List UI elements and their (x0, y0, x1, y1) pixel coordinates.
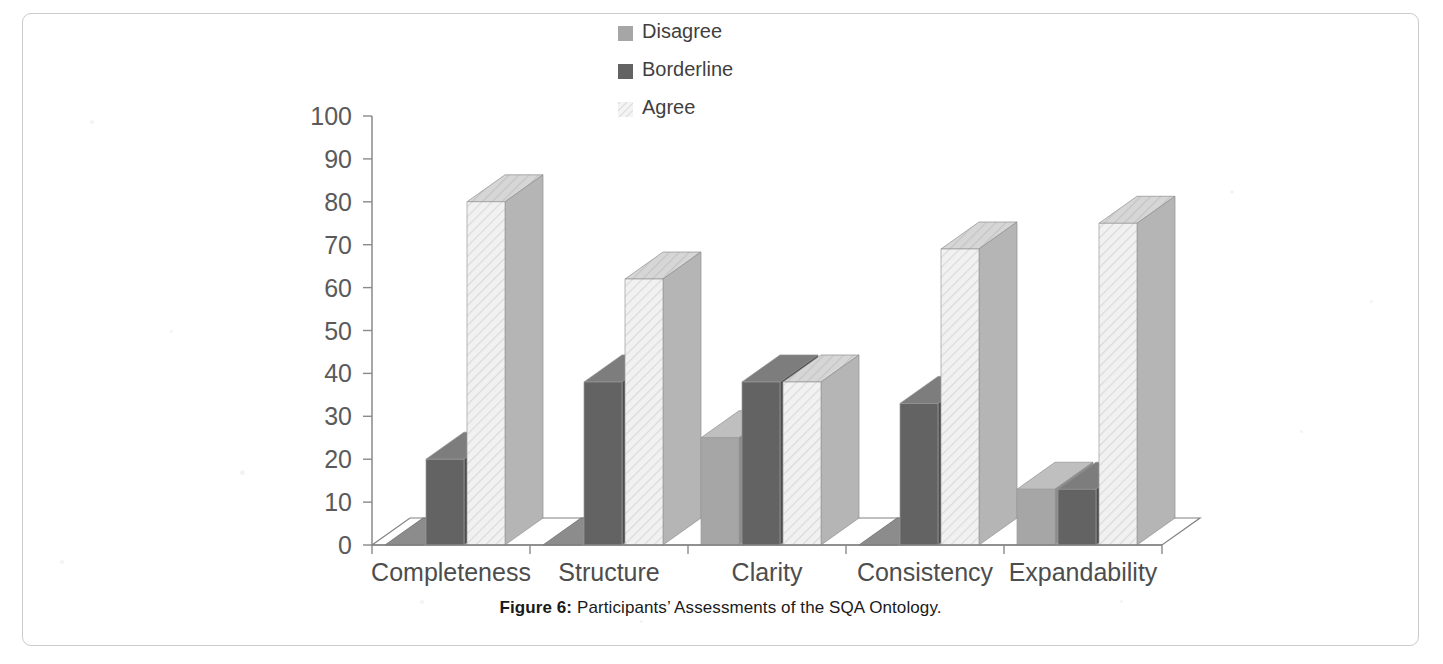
y-axis: 1009080706050403020100 (310, 102, 372, 559)
bar-front-face (426, 459, 464, 545)
legend-swatch-borderline[interactable] (618, 64, 633, 79)
y-axis-tick-label: 80 (324, 188, 352, 216)
y-axis-tick-label: 100 (310, 102, 352, 130)
bar-agree-expandability (1099, 196, 1175, 545)
bar-agree-clarity (783, 355, 859, 545)
bar-front-face (783, 382, 821, 545)
y-axis-tick-label: 20 (324, 445, 352, 473)
legend-label-agree[interactable]: Agree (642, 96, 695, 118)
bars-layer (385, 175, 1175, 545)
x-axis-category-label: Consistency (857, 558, 994, 586)
bar-front-face (1099, 223, 1137, 545)
x-axis-category-label: Completeness (371, 558, 531, 586)
bar-agree-structure (625, 252, 701, 545)
legend-swatch-disagree[interactable] (618, 26, 633, 41)
y-axis-tick-label: 30 (324, 402, 352, 430)
y-axis-tick-label: 60 (324, 274, 352, 302)
bar-side-face (979, 222, 1017, 545)
bar-chart-svg: DisagreeBorderlineAgree 1009080706050403… (0, 0, 1443, 664)
bar-agree-consistency (941, 222, 1017, 545)
bar-front-face (625, 279, 663, 545)
y-axis-tick-label: 70 (324, 231, 352, 259)
bar-front-face (941, 249, 979, 545)
y-axis-tick-label: 40 (324, 359, 352, 387)
figure-page: DisagreeBorderlineAgree 1009080706050403… (0, 0, 1443, 664)
legend-swatch-agree[interactable] (618, 102, 633, 117)
bar-front-face (1058, 489, 1096, 545)
figure-caption: Figure 6: Participants’ Assessments of t… (22, 598, 1419, 618)
x-axis: CompletenessStructureClarityConsistencyE… (371, 545, 1162, 586)
bar-side-face (505, 175, 543, 545)
x-axis-category-label: Expandability (1009, 558, 1158, 586)
bar-front-face (701, 438, 739, 545)
bar-front-face (467, 202, 505, 545)
y-axis-tick-label: 0 (338, 531, 352, 559)
legend-label-borderline[interactable]: Borderline (642, 58, 733, 80)
chart-canvas: DisagreeBorderlineAgree 1009080706050403… (0, 0, 1443, 664)
x-axis-category-label: Structure (558, 558, 659, 586)
figure-caption-label: Figure 6: (499, 598, 572, 617)
bar-side-face (1137, 196, 1175, 545)
bar-front-face (1017, 489, 1055, 545)
y-axis-tick-label: 90 (324, 145, 352, 173)
legend-label-disagree[interactable]: Disagree (642, 20, 722, 42)
y-axis-tick-label: 50 (324, 317, 352, 345)
figure-caption-text: Participants’ Assessments of the SQA Ont… (572, 598, 941, 617)
bar-agree-completeness (467, 175, 543, 545)
x-axis-category-label: Clarity (732, 558, 803, 586)
y-axis-tick-label: 10 (324, 488, 352, 516)
bar-front-face (900, 403, 938, 545)
chart-legend: DisagreeBorderlineAgree (618, 20, 733, 118)
bar-side-face (821, 355, 859, 545)
bar-front-face (742, 382, 780, 545)
bar-side-face (663, 252, 701, 545)
bar-front-face (584, 382, 622, 545)
